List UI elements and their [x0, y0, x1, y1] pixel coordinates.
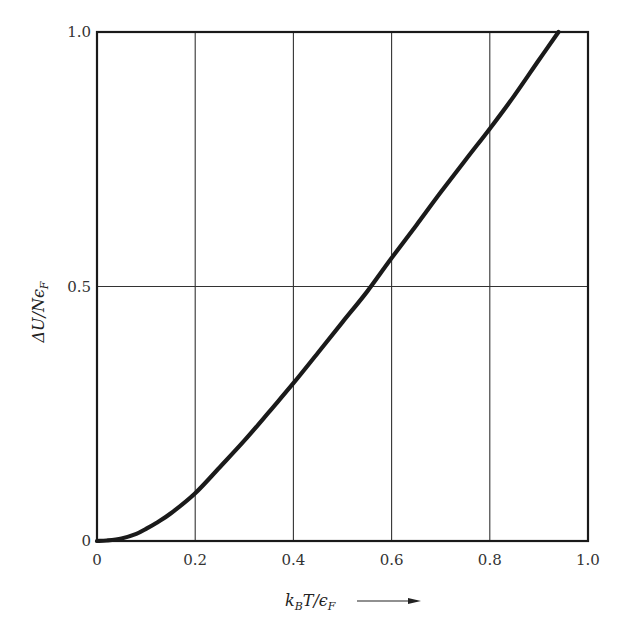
grid-lines — [97, 32, 588, 541]
y-tick-label: 1.0 — [67, 23, 91, 41]
x-tick-label: 0.4 — [281, 551, 305, 569]
x-tick-labels: 00.20.40.60.81.0 — [92, 551, 600, 569]
y-tick-labels: 00.51.0 — [67, 23, 91, 550]
y-axis-label: ΔU/NϵF — [29, 281, 51, 343]
chart: 00.20.40.60.81.0 00.51.0 kBT/ϵF ΔU/NϵF — [0, 0, 623, 620]
y-tick-label: 0.5 — [67, 278, 91, 296]
y-tick-label: 0 — [81, 532, 91, 550]
x-axis-label: kBT/ϵF — [285, 591, 336, 613]
x-tick-label: 1.0 — [576, 551, 600, 569]
x-tick-label: 0.8 — [478, 551, 502, 569]
x-tick-label: 0.2 — [183, 551, 207, 569]
x-tick-label: 0 — [92, 551, 102, 569]
x-tick-label: 0.6 — [380, 551, 404, 569]
x-axis-arrow-icon — [357, 598, 421, 604]
